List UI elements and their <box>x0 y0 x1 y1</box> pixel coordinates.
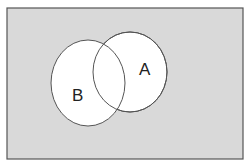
venn-diagram: A B <box>0 0 247 164</box>
set-b-label: B <box>72 86 83 105</box>
set-a-label: A <box>139 60 151 79</box>
set-b-circle <box>51 40 125 126</box>
